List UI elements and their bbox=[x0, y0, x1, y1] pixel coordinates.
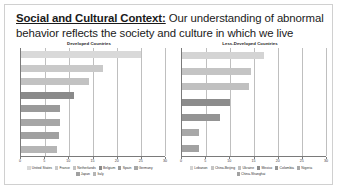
bar bbox=[21, 78, 89, 85]
chart-title: Developed Countries bbox=[11, 41, 167, 46]
bar bbox=[21, 65, 103, 72]
legend-item: Spain bbox=[118, 165, 131, 171]
legend-label: United States bbox=[32, 165, 52, 171]
bar bbox=[182, 68, 251, 75]
legend-item: Nigeria bbox=[297, 165, 312, 171]
legend-swatch bbox=[237, 172, 240, 175]
bar bbox=[182, 52, 264, 59]
axis-tick-label: 15 bbox=[91, 159, 95, 163]
bars-left bbox=[21, 48, 165, 156]
legend-swatch bbox=[297, 166, 300, 169]
legend-label: France bbox=[59, 165, 70, 171]
legend-item: France bbox=[55, 165, 70, 171]
legend-swatch bbox=[27, 166, 30, 169]
legend-item: Italy bbox=[93, 171, 104, 177]
bar bbox=[21, 132, 59, 139]
bar bbox=[21, 51, 141, 58]
axis-tick-label: 15 bbox=[252, 159, 256, 163]
bar bbox=[21, 146, 57, 153]
gridline bbox=[326, 48, 327, 156]
legend-swatch bbox=[275, 166, 278, 169]
legend-swatch bbox=[190, 166, 193, 169]
legend-label: China-Beijing bbox=[215, 165, 235, 171]
headline-lead: Social and Cultural Context: bbox=[16, 12, 166, 24]
axis-tick-label: 10 bbox=[227, 159, 231, 163]
legend-swatch bbox=[76, 172, 79, 175]
legend-item: United States bbox=[27, 165, 52, 171]
legend-label: Colombia bbox=[280, 165, 294, 171]
legend-right: LebanonChina-BeijingUkraineMexicoColombi… bbox=[176, 165, 326, 177]
bar bbox=[21, 92, 74, 99]
legend-label: Spain bbox=[123, 165, 132, 171]
legend-label: Belgium bbox=[103, 165, 115, 171]
legend-item: Colombia bbox=[275, 165, 294, 171]
plot-area-right bbox=[181, 48, 326, 156]
axis-tick-label: 25 bbox=[300, 159, 304, 163]
legend-swatch bbox=[134, 166, 137, 169]
legend-swatch bbox=[211, 166, 214, 169]
axis-tick-label: 10 bbox=[66, 159, 70, 163]
axis-tick-label: 5 bbox=[204, 159, 206, 163]
legend-item: Lebanon bbox=[190, 165, 208, 171]
legend-swatch bbox=[257, 166, 260, 169]
axis-tick-label: 30 bbox=[324, 159, 328, 163]
axis-tick-label: 20 bbox=[115, 159, 119, 163]
bar bbox=[21, 119, 60, 126]
axis-tick-label: 25 bbox=[139, 159, 143, 163]
legend-label: Japan bbox=[81, 171, 90, 177]
bar bbox=[182, 145, 199, 152]
bar bbox=[182, 99, 230, 106]
bar bbox=[21, 105, 60, 112]
legend-label: Lebanon bbox=[194, 165, 207, 171]
legend-swatch bbox=[99, 166, 102, 169]
bars-right bbox=[182, 48, 326, 156]
legend-label: Germany bbox=[139, 165, 153, 171]
legend-label: Italy bbox=[97, 171, 103, 177]
legend-swatch bbox=[93, 172, 96, 175]
legend-item: Japan bbox=[76, 171, 90, 177]
page-title: Social and Cultural Context: Our underst… bbox=[16, 11, 326, 40]
legend-left: United StatesFranceNetherlandsBelgiumSpa… bbox=[15, 165, 165, 177]
x-axis-ticks-right: 051015202530 bbox=[181, 157, 326, 165]
axis-tick-label: 0 bbox=[19, 159, 21, 163]
legend-item: China-Shanghai bbox=[237, 171, 266, 177]
legend-swatch bbox=[118, 166, 121, 169]
plot-area-left bbox=[20, 48, 165, 156]
axis-tick-label: 5 bbox=[43, 159, 45, 163]
chart-less-developed-countries: Less-Developed Countries 051015202530 Le… bbox=[172, 41, 328, 184]
legend-swatch bbox=[73, 166, 76, 169]
axis-tick-label: 0 bbox=[180, 159, 182, 163]
legend-swatch bbox=[238, 166, 241, 169]
bar bbox=[182, 83, 249, 90]
bar bbox=[182, 114, 220, 121]
bar bbox=[182, 129, 199, 136]
legend-item: China-Beijing bbox=[211, 165, 236, 171]
slide: Social and Cultural Context: Our underst… bbox=[4, 4, 333, 185]
charts-container: Developed Countries 051015202530 United … bbox=[11, 41, 328, 184]
legend-label: China-Shanghai bbox=[241, 171, 265, 177]
axis-tick-label: 30 bbox=[163, 159, 167, 163]
x-axis-ticks-left: 051015202530 bbox=[20, 157, 165, 165]
legend-item: Germany bbox=[134, 165, 152, 171]
chart-title: Less-Developed Countries bbox=[172, 41, 328, 46]
legend-label: Nigeria bbox=[301, 165, 312, 171]
axis-tick-label: 20 bbox=[276, 159, 280, 163]
chart-developed-countries: Developed Countries 051015202530 United … bbox=[11, 41, 167, 184]
legend-swatch bbox=[55, 166, 58, 169]
gridline bbox=[165, 48, 166, 156]
